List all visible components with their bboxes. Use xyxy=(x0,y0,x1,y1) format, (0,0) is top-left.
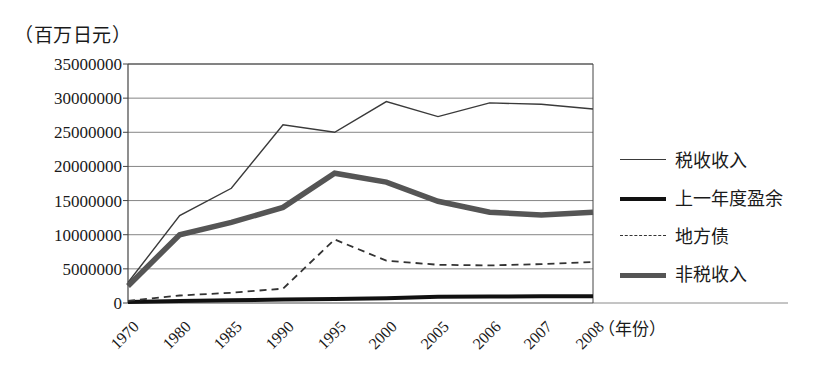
legend-item-label: 上一年度盈余 xyxy=(675,184,783,210)
legend-item[interactable]: 非税收入 xyxy=(620,254,815,292)
legend-item-label: 非税收入 xyxy=(675,260,747,286)
series-line-3 xyxy=(128,239,593,300)
legend-line-swatch-icon xyxy=(620,190,666,204)
series-line-1 xyxy=(128,102,593,283)
legend-item[interactable]: 上一年度盈余 xyxy=(620,178,815,216)
legend-line-swatch-icon xyxy=(620,266,666,280)
legend-item[interactable]: 地方债 xyxy=(620,216,815,254)
legend-item-label: 地方债 xyxy=(675,222,729,248)
legend-item-label: 税收收入 xyxy=(675,146,747,172)
legend-line-swatch-icon xyxy=(620,228,666,242)
gridlines xyxy=(128,64,593,303)
legend-line-swatch-icon xyxy=(620,152,666,166)
data-series-layer xyxy=(128,102,593,302)
chart-figure: （百万日元） （年份） 0500000010000000150000002000… xyxy=(0,0,818,376)
series-line-2 xyxy=(128,296,593,302)
chart-legend: 税收收入上一年度盈余地方债非税收入 xyxy=(620,140,815,292)
legend-item[interactable]: 税收收入 xyxy=(620,140,815,178)
